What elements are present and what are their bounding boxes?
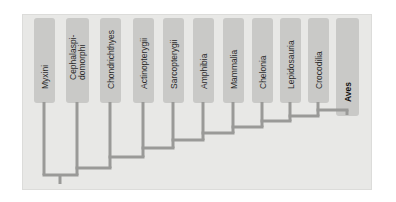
branch-group (43, 102, 349, 184)
cladogram-figure: MyxiniCephalaspi-domorphiChondrichthyesA… (0, 0, 396, 202)
cladogram-branches (0, 0, 396, 202)
